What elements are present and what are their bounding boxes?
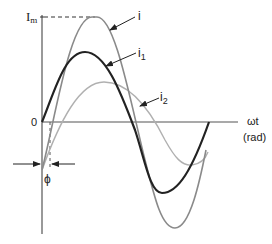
curve-label-i2: i2 (160, 90, 168, 106)
x-axis-unit: (rad) (243, 131, 266, 143)
peak-label: Im (26, 9, 37, 25)
label-arrow-i2 (140, 98, 159, 106)
waveform-diagram: Im 0 i i1 i2 ωt (rad) ϕ (0, 0, 272, 244)
label-arrow-i (110, 17, 135, 30)
curve-label-i: i (138, 9, 141, 23)
origin-label: 0 (31, 116, 37, 128)
x-axis-label: ωt (247, 115, 259, 127)
curve-i2 (42, 82, 208, 170)
phase-label: ϕ (44, 172, 51, 186)
curve-label-i1: i1 (138, 46, 146, 62)
